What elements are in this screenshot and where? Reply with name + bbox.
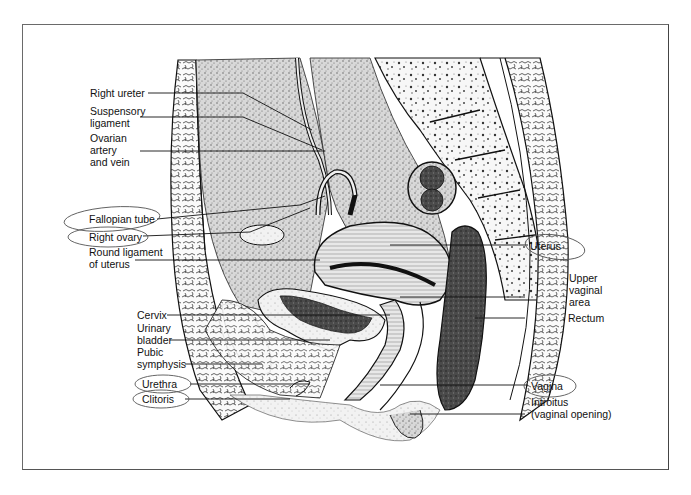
ovary-shape [240, 225, 284, 245]
abdominal-cavity [196, 58, 330, 320]
label-clitoris: Clitoris [142, 393, 174, 405]
label-urethra: Urethra [142, 378, 177, 390]
label-cervix: Cervix [137, 309, 167, 321]
label-fallopian-tube: Fallopian tube [89, 213, 155, 225]
label-introitus: Introitus(vaginal opening) [531, 396, 612, 420]
label-round-ligament: Round ligamentof uterus [89, 246, 163, 270]
label-rectum: Rectum [568, 312, 604, 324]
label-upper-vaginal-area: Uppervaginalarea [569, 272, 602, 308]
label-vagina: Vagina [531, 380, 563, 392]
label-ovarian-artery-vein: Ovarianarteryand vein [90, 132, 130, 168]
label-urinary-bladder: Urinarybladder [137, 322, 172, 346]
label-pubic-symphysis: Pubicsymphysis [137, 346, 186, 370]
label-uterus: Uterus [530, 240, 561, 252]
uterus-shape [314, 222, 451, 305]
label-right-ureter: Right ureter [90, 87, 145, 99]
label-suspensory-ligament: Suspensoryligament [90, 105, 145, 129]
label-right-ovary: Right ovary [89, 231, 142, 243]
